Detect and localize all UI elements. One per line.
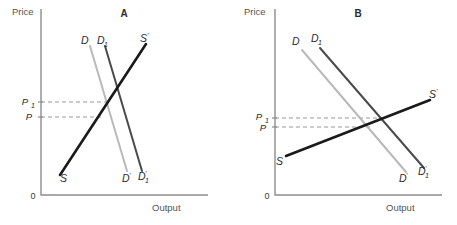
curve-supply	[286, 100, 430, 156]
curve-label-s: S	[60, 172, 67, 184]
curve-label-d: D	[81, 34, 89, 46]
curve-label-d1-prime-mark: '	[425, 165, 427, 172]
curve-label-d1-subscript: 1	[318, 39, 322, 46]
origin-label: 0	[30, 191, 35, 201]
curve-demand-original	[90, 46, 127, 171]
curve-label-s: S	[276, 155, 283, 167]
curve-demand-shifted	[105, 46, 142, 171]
x-axis-label: Output	[152, 202, 181, 213]
panel-b: Price B 0 Output P 1 P	[228, 0, 457, 225]
curve-label-d-prime-mark: '	[129, 172, 131, 179]
y-axis-label: Price	[244, 6, 266, 17]
curve-label-d1-prime-mark: '	[145, 170, 147, 177]
panel-a: Price A 0 Output P 1 P	[0, 0, 229, 225]
curve-label-s-prime: S	[429, 88, 436, 100]
curve-label-d-prime-mark: '	[406, 172, 408, 179]
price-label-p1-subscript: 1	[31, 102, 35, 109]
panel-title: B	[354, 8, 361, 19]
x-axis-label: Output	[386, 202, 415, 213]
price-label-p1: P	[22, 96, 29, 107]
price-label-p1: P	[256, 111, 263, 122]
curve-demand-original	[302, 50, 406, 172]
curve-label-d1-prime-subscript: 1	[425, 172, 429, 179]
curve-label-d: D	[292, 35, 300, 47]
curve-label-d1-prime-subscript: 1	[145, 177, 149, 184]
curve-label-d1-subscript: 1	[104, 41, 108, 48]
panel-title: A	[120, 8, 127, 19]
curve-supply	[60, 44, 146, 175]
curve-label-s-prime-mark: '	[436, 88, 438, 95]
curve-label-s-prime: S	[140, 32, 147, 44]
y-axis-label: Price	[12, 6, 34, 17]
origin-label: 0	[264, 191, 269, 201]
price-label-p: P	[26, 111, 33, 122]
price-label-p: P	[260, 122, 267, 133]
figure-container: Price A 0 Output P 1 P	[0, 0, 457, 225]
axes	[275, 9, 442, 195]
curve-label-s-prime-mark: '	[147, 32, 149, 39]
